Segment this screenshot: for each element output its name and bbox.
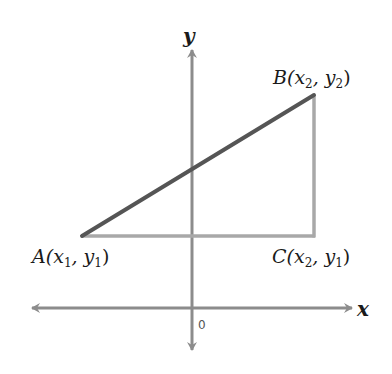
point-c-sep: , y xyxy=(312,245,335,267)
point-b-sub1: 2 xyxy=(305,77,313,91)
point-a-name: A xyxy=(30,245,46,267)
point-b-label: B(x2, y2) xyxy=(272,66,351,91)
point-a-label: A(x1, y1) xyxy=(30,245,109,270)
origin-label: 0 xyxy=(198,318,206,332)
point-c-close: ) xyxy=(343,245,350,267)
point-b-name: B xyxy=(272,66,287,88)
point-b-sep: , y xyxy=(313,66,336,88)
point-b-sub2: 2 xyxy=(336,77,344,91)
point-a-sub2: 1 xyxy=(94,256,102,270)
point-a-sub1: 1 xyxy=(64,256,72,270)
point-c-name: C xyxy=(272,245,287,267)
point-a-sep: , y xyxy=(72,245,95,267)
point-a-open: (x xyxy=(46,245,64,267)
point-a-close: ) xyxy=(102,245,109,267)
point-c-label: C(x2, y1) xyxy=(272,245,350,270)
point-c-sub1: 2 xyxy=(305,256,313,270)
point-b-open: (x xyxy=(287,66,305,88)
y-axis-label: y xyxy=(182,24,196,48)
coordinate-diagram: y x 0 B(x2, y2) A(x1, y1) C(x2, y1) xyxy=(0,0,392,374)
point-c-open: (x xyxy=(287,245,305,267)
segment-ab xyxy=(82,95,314,236)
point-c-sub2: 1 xyxy=(335,256,343,270)
point-b-close: ) xyxy=(343,66,350,88)
x-axis-label: x xyxy=(356,297,370,321)
